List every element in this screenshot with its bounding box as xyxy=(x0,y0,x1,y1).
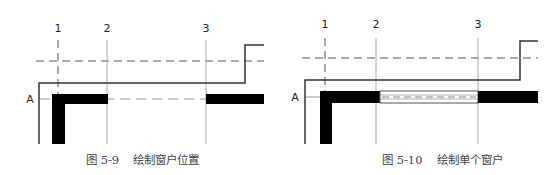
diagram-canvas: 1 2 3 A 1 2 3 A xyxy=(0,0,558,175)
wall-corner xyxy=(52,94,108,144)
wall-right xyxy=(478,91,538,103)
grid-label-1: 1 xyxy=(55,22,62,35)
grid-label-2: 2 xyxy=(104,22,111,35)
axis-label-a: A xyxy=(26,93,34,106)
window xyxy=(380,91,478,103)
caption-figure-5-10: 图 5-10绘制单个窗户 xyxy=(382,151,503,167)
figure-5-9: 1 2 3 A xyxy=(26,22,264,144)
figure-5-10: 1 2 3 A xyxy=(291,18,538,144)
caption-figure-5-9: 图 5-9绘制窗户位置 xyxy=(86,151,199,167)
caption-title: 绘制单个窗户 xyxy=(437,153,503,167)
wall-corner xyxy=(320,91,380,144)
axis-label-a: A xyxy=(291,91,299,104)
wall-right xyxy=(206,94,264,104)
grid-label-1: 1 xyxy=(322,18,329,31)
grid-label-3: 3 xyxy=(203,22,210,35)
caption-number: 图 5-9 xyxy=(86,153,119,167)
caption-number: 图 5-10 xyxy=(382,153,423,167)
caption-title: 绘制窗户位置 xyxy=(133,153,199,167)
grid-label-2: 2 xyxy=(373,18,380,31)
grid-label-3: 3 xyxy=(475,18,482,31)
